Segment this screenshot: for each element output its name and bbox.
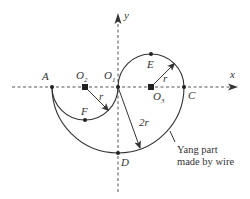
label-o2: O2	[76, 69, 88, 84]
annotation-line-2: made by wire	[177, 156, 234, 167]
point-e	[149, 52, 153, 56]
point-c	[182, 85, 186, 89]
label-o3: O3	[153, 90, 165, 105]
yin-yang-wire-diagram: x y A O2 O1 O3 C E F D r r 2r Yang part …	[0, 0, 250, 199]
x-axis-label: x	[229, 68, 235, 80]
label-d: D	[120, 156, 129, 168]
label-e: E	[146, 58, 154, 70]
label-o1-sub: 1	[112, 76, 116, 84]
y-axis-arrow-icon	[115, 13, 122, 24]
label-a: A	[41, 70, 49, 82]
label-radius-o2: r	[99, 90, 104, 102]
point-f	[83, 118, 87, 122]
label-f: F	[80, 105, 88, 117]
y-axis-label: y	[123, 9, 129, 21]
label-c: C	[188, 89, 196, 101]
label-o2-sub: 2	[84, 76, 88, 84]
label-o1-base: O	[104, 69, 112, 81]
label-o1: O1	[104, 69, 115, 84]
point-o1	[116, 85, 120, 89]
radius-arrow-o2	[85, 87, 109, 111]
label-o2-base: O	[76, 69, 84, 81]
point-d	[116, 151, 120, 155]
label-radius-o3: r	[163, 72, 168, 84]
point-o2	[82, 84, 88, 90]
annotation-leader-line	[170, 131, 175, 142]
label-o3-base: O	[153, 90, 161, 102]
label-o3-sub: 3	[160, 97, 165, 105]
radius-arrow-o1	[118, 87, 140, 148]
point-a	[50, 85, 54, 89]
annotation-line-1: Yang part	[177, 144, 218, 155]
label-radius-o1: 2r	[139, 116, 150, 128]
